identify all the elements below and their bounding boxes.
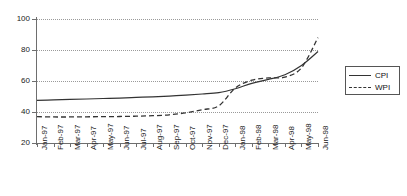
x-axis-label-sep-97: Sep-97 — [173, 124, 181, 150]
x-tick-may-97 — [103, 143, 104, 147]
legend-entry-cpi: CPI — [349, 70, 398, 81]
x-tick-mar-98 — [268, 143, 269, 147]
x-tick-jan-97 — [37, 143, 38, 147]
x-tick-may-98 — [301, 143, 302, 147]
y-tick-40 — [32, 112, 37, 113]
x-tick-oct-97 — [186, 143, 187, 147]
line-chart: 20406080100 CPI WPI Jan-97Feb-97Mar-97Ap… — [0, 0, 407, 196]
x-tick-nov-97 — [202, 143, 203, 147]
x-tick-apr-97 — [87, 143, 88, 147]
legend-swatch-dashed-icon — [349, 84, 371, 92]
x-tick-jul-97 — [136, 143, 137, 147]
x-axis-label-oct-97: Oct-97 — [189, 126, 197, 150]
x-tick-jun-98 — [318, 143, 319, 147]
x-axis-label-feb-98: Feb-98 — [255, 125, 263, 150]
x-axis-label-apr-98: Apr-98 — [288, 126, 296, 150]
x-axis-label-mar-97: Mar-97 — [74, 125, 82, 150]
x-tick-feb-97 — [54, 143, 55, 147]
x-axis-label-may-97: May-97 — [107, 123, 115, 150]
y-tick-60 — [32, 81, 37, 82]
x-axis-label-aug-97: Aug-97 — [156, 124, 164, 150]
series-line-wpi — [37, 38, 318, 117]
series-layer — [0, 0, 407, 196]
x-axis-label-may-98: May-98 — [305, 123, 313, 150]
x-tick-apr-98 — [285, 143, 286, 147]
x-axis-label-jun-98: Jun-98 — [322, 126, 330, 150]
x-tick-mar-97 — [70, 143, 71, 147]
legend-label-wpi: WPI — [375, 84, 390, 92]
x-tick-jan-98 — [235, 143, 236, 147]
x-tick-sep-97 — [169, 143, 170, 147]
x-tick-feb-98 — [252, 143, 253, 147]
legend-label-cpi: CPI — [375, 72, 388, 80]
x-axis-label-feb-97: Feb-97 — [57, 125, 65, 150]
series-line-cpi — [37, 52, 318, 101]
y-tick-100 — [32, 19, 37, 20]
y-tick-80 — [32, 50, 37, 51]
legend-swatch-solid-icon — [349, 72, 371, 80]
legend-entry-wpi: WPI — [349, 82, 398, 93]
x-axis-label-mar-98: Mar-98 — [272, 125, 280, 150]
x-tick-dec-97 — [219, 143, 220, 147]
x-tick-jun-97 — [120, 143, 121, 147]
x-axis-label-apr-97: Apr-97 — [90, 126, 98, 150]
x-axis-label-jun-97: Jun-97 — [123, 126, 131, 150]
x-axis-label-nov-97: Nov-97 — [206, 124, 214, 150]
legend: CPI WPI — [345, 66, 400, 95]
x-axis-label-jan-98: Jan-98 — [239, 126, 247, 150]
x-tick-aug-97 — [153, 143, 154, 147]
x-axis-label-dec-97: Dec-97 — [222, 124, 230, 150]
x-axis-label-jul-97: Jul-97 — [140, 128, 148, 150]
x-axis-label-jan-97: Jan-97 — [41, 126, 49, 150]
